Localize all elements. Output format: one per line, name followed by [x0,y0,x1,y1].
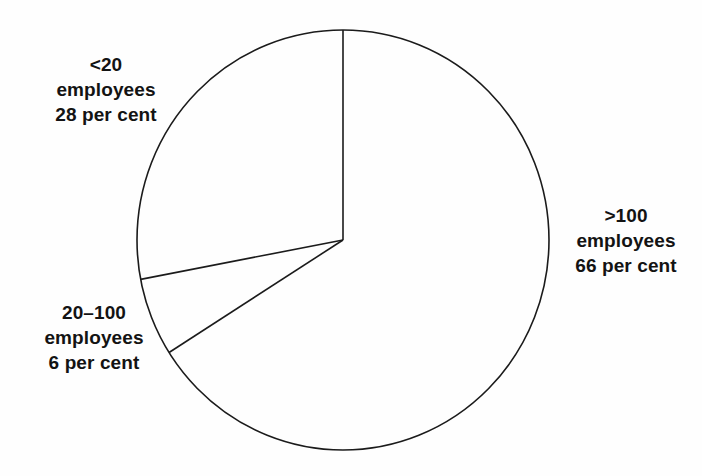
pie-chart-figure: <20 employees 28 per cent 20–100 employe… [0,0,702,476]
slice-label-unit: employees [558,228,694,253]
slice-label-category: >100 [558,203,694,228]
slice-label-value: 28 per cent [40,102,172,127]
slice-label-20-to-100: 20–100 employees 6 per cent [28,300,160,375]
slice-label-value: 6 per cent [28,350,160,375]
slice-label-unit: employees [40,77,172,102]
slice-label-under-20: <20 employees 28 per cent [40,52,172,127]
slice-label-category: <20 [40,52,172,77]
slice-label-value: 66 per cent [558,253,694,278]
slice-label-over-100: >100 employees 66 per cent [558,203,694,278]
slice-label-category: 20–100 [28,300,160,325]
slice-label-unit: employees [28,325,160,350]
